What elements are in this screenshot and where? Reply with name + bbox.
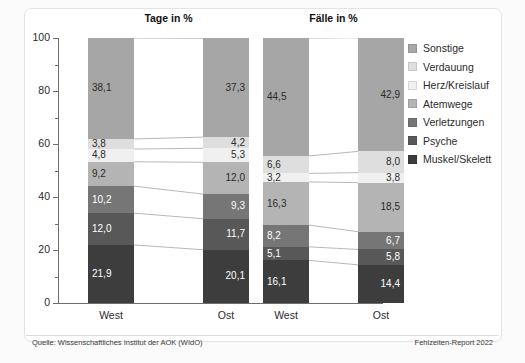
segment-value-label: 38,1 [88,83,111,93]
connector-line [134,137,203,139]
x-axis [58,303,383,304]
segment-value-label: 16,1 [263,277,286,287]
plot-area: 020406080100 West21,912,010,29,24,83,838… [58,38,383,303]
segment-psyche[interactable]: 11,7 [203,219,249,250]
segment-muskel-skelett[interactable]: 16,1 [263,260,309,303]
segment-value-label: 9,2 [88,169,106,179]
segment-herz-kreislauf[interactable]: 4,8 [88,149,134,162]
segment-verletzungen[interactable]: 6,7 [358,232,404,250]
legend-item-psyche[interactable]: Psyche [408,135,518,147]
legend-swatch-icon [408,99,417,108]
connector-line [134,186,203,194]
segment-value-label: 37,3 [203,83,249,93]
segment-atemwege[interactable]: 9,2 [88,162,134,186]
y-tick-label: 40 [38,190,50,202]
connector-line [309,247,358,250]
segment-sonstige[interactable]: 37,3 [203,38,249,137]
segment-value-label: 42,9 [358,90,404,100]
y-tick-mark [53,303,58,304]
connector-line [309,260,358,265]
bar-ost-tage[interactable]: 20,111,79,312,05,34,237,3 [203,38,249,303]
segment-value-label: 5,1 [263,249,281,259]
y-axis [58,38,59,303]
legend-swatch-icon [408,118,417,127]
segment-value-label: 4,2 [203,138,249,148]
segment-value-label: 12,0 [88,224,111,234]
legend-item-sonstige[interactable]: Sonstige [408,42,518,54]
panel-title-tage: Tage in % [88,12,249,24]
y-tick-mark [53,250,58,251]
legend-item-herz-kreislauf[interactable]: Herz/Kreislauf [408,79,518,91]
segment-value-label: 5,8 [358,252,404,262]
legend-label: Psyche [423,135,457,147]
bar-ost-faelle[interactable]: 14,45,86,718,53,88,042,9 [358,38,404,303]
legend-item-muskel-skelett[interactable]: Muskel/Skelett [408,153,518,165]
segment-value-label: 11,7 [203,229,249,239]
segment-muskel-skelett[interactable]: 20,1 [203,250,249,303]
segment-value-label: 21,9 [88,269,111,279]
y-tick-label: 100 [32,31,50,43]
segment-psyche[interactable]: 12,0 [88,213,134,245]
y-tick-mark [53,197,58,198]
segment-atemwege[interactable]: 16,3 [263,182,309,225]
legend-item-verdauung[interactable]: Verdauung [408,61,518,73]
legend: SonstigeVerdauungHerz/KreislaufAtemwegeV… [408,42,518,172]
segment-verdauung[interactable]: 4,2 [203,137,249,148]
legend-label: Verletzungen [423,116,484,128]
segment-value-label: 8,2 [263,231,281,241]
connector-line [309,173,358,174]
y-tick-mark [53,38,58,39]
y-tick-mark [53,91,58,92]
segment-value-label: 5,3 [203,150,249,160]
segment-atemwege[interactable]: 18,5 [358,183,404,232]
connector-line [309,151,358,156]
bar-west-tage[interactable]: 21,912,010,29,24,83,838,1 [88,38,134,303]
segment-sonstige[interactable]: 44,5 [263,38,309,156]
segment-value-label: 12,0 [203,173,249,183]
x-axis-label-ost: Ost [358,309,404,321]
connector-line [134,162,203,163]
segment-verdauung[interactable]: 6,6 [263,156,309,173]
segment-herz-kreislauf[interactable]: 5,3 [203,148,249,162]
segment-value-label: 8,0 [358,157,404,167]
y-tick-mark [55,65,58,66]
source-note: Quelle: Wissenschaftliches Institut der … [32,338,202,347]
segment-verletzungen[interactable]: 9,3 [203,194,249,219]
legend-swatch-icon [408,136,417,145]
legend-swatch-icon [408,62,417,71]
bar-west-faelle[interactable]: 16,15,18,216,33,26,644,5 [263,38,309,303]
legend-label: Verdauung [423,61,474,73]
segment-value-label: 14,4 [358,279,404,289]
x-axis-label-west: West [88,309,134,321]
connector-line [134,213,203,219]
figure: 020406080100 West21,912,010,29,24,83,838… [0,0,525,363]
segment-muskel-skelett[interactable]: 21,9 [88,245,134,303]
y-tick-mark [55,277,58,278]
connector-line [309,225,358,232]
segment-psyche[interactable]: 5,8 [358,249,404,264]
segment-verletzungen[interactable]: 8,2 [263,225,309,247]
segment-value-label: 10,2 [88,195,111,205]
y-tick-label: 80 [38,84,50,96]
legend-label: Sonstige [423,42,464,54]
credit-note: Fehlzeiten-Report 2022 [415,338,493,347]
segment-atemwege[interactable]: 12,0 [203,162,249,194]
segment-value-label: 20,1 [203,271,249,281]
segment-herz-kreislauf[interactable]: 3,8 [358,173,404,183]
segment-sonstige[interactable]: 42,9 [358,38,404,152]
segment-value-label: 18,5 [358,202,404,212]
segment-value-label: 9,3 [203,201,249,211]
legend-swatch-icon [408,44,417,53]
legend-item-atemwege[interactable]: Atemwege [408,98,518,110]
segment-sonstige[interactable]: 38,1 [88,38,134,139]
segment-verletzungen[interactable]: 10,2 [88,186,134,213]
segment-verdauung[interactable]: 3,8 [88,139,134,149]
legend-swatch-icon [408,155,417,164]
legend-label: Muskel/Skelett [423,153,491,165]
segment-muskel-skelett[interactable]: 14,4 [358,265,404,303]
segment-verdauung[interactable]: 8,0 [358,151,404,172]
x-axis-label-ost: Ost [203,309,249,321]
segment-herz-kreislauf[interactable]: 3,2 [263,173,309,181]
legend-item-verletzungen[interactable]: Verletzungen [408,116,518,128]
segment-psyche[interactable]: 5,1 [263,247,309,261]
